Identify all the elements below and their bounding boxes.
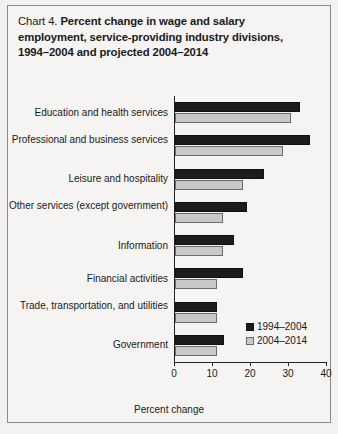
category-label: Financial activities	[8, 273, 168, 285]
legend-item: 1994–2004	[246, 320, 307, 334]
x-axis-title: Percent change	[0, 404, 338, 415]
bar-period2	[175, 313, 217, 323]
bar-period1	[175, 335, 224, 345]
figure-label: Chart 4.	[18, 15, 57, 27]
x-axis-tick	[212, 362, 213, 366]
category-label: Professional and business services	[8, 134, 168, 146]
bar-period1	[175, 268, 243, 278]
x-axis-tick-label: 20	[230, 368, 270, 379]
x-axis-tick-label: 10	[192, 368, 232, 379]
bar-period2	[175, 146, 283, 156]
bar-period2	[175, 346, 217, 356]
figure-title-line2: employment, service-providing industry d…	[18, 31, 283, 43]
x-axis-tick	[174, 362, 175, 366]
bar-period2	[175, 180, 243, 190]
legend-swatch-icon	[246, 337, 254, 345]
bar-period2	[175, 213, 223, 223]
legend-item: 2004–2014	[246, 334, 307, 348]
legend-label: 1994–2004	[257, 320, 307, 334]
figure-title-line3: 1994–2004 and projected 2004–2014	[18, 46, 208, 58]
figure-title-line1: Percent change in wage and salary	[60, 15, 244, 27]
figure-title: Chart 4. Percent change in wage and sala…	[18, 14, 318, 61]
bar-period2	[175, 246, 223, 256]
bar-period1	[175, 102, 300, 112]
category-label: Information	[8, 240, 168, 252]
chart-legend: 1994–20042004–2014	[246, 320, 307, 348]
category-label: Leisure and hospitality	[8, 173, 168, 185]
bar-period1	[175, 202, 247, 212]
bar-period2	[175, 113, 291, 123]
chart-page: Chart 4. Percent change in wage and sala…	[0, 0, 338, 434]
bar-period1	[175, 302, 217, 312]
x-axis-tick	[288, 362, 289, 366]
category-label: Education and health services	[8, 107, 168, 119]
legend-label: 2004–2014	[257, 334, 307, 348]
x-axis-tick-label: 0	[154, 368, 194, 379]
x-axis-tick-label: 30	[268, 368, 308, 379]
bar-period1	[175, 135, 310, 145]
legend-swatch-icon	[246, 323, 254, 331]
x-axis-tick-label: 40	[306, 368, 338, 379]
x-axis-tick	[326, 362, 327, 366]
x-axis-tick	[250, 362, 251, 366]
bar-period1	[175, 235, 234, 245]
category-label: Government	[8, 339, 168, 351]
bar-period1	[175, 169, 264, 179]
bar-period2	[175, 279, 217, 289]
category-label: Trade, transportation, and utilities	[8, 300, 168, 312]
category-label: Other services (except government)	[8, 200, 168, 212]
